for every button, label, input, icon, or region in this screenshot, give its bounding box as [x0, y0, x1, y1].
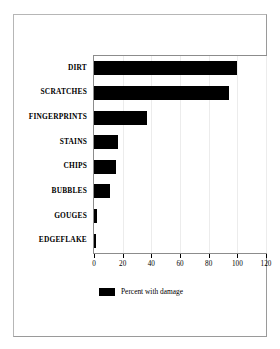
bar-chips[interactable] [94, 160, 116, 174]
bar-row[interactable] [94, 130, 266, 155]
x-tick-mark [94, 254, 95, 258]
plot-area [93, 55, 267, 254]
bar-edgeflake[interactable] [94, 234, 96, 248]
gridline [266, 56, 267, 253]
x-tick-label-100: 100 [232, 260, 243, 268]
category-label-stains: STAINS [60, 129, 87, 154]
category-label-chips: CHIPS [63, 154, 87, 179]
x-tick-mark [209, 254, 210, 258]
bar-stains[interactable] [94, 135, 118, 149]
chart-legend: Percent with damage [14, 287, 268, 296]
x-tick-label-20: 20 [119, 260, 126, 268]
x-tick-mark [180, 254, 181, 258]
category-label-bubbles: BUBBLES [52, 178, 88, 203]
x-axis: 020406080100120 [93, 254, 267, 276]
x-tick-mark [237, 254, 238, 258]
x-tick-label-80: 80 [205, 260, 212, 268]
bar-row[interactable] [94, 56, 266, 81]
bar-row[interactable] [94, 228, 266, 253]
x-tick-label-40: 40 [148, 260, 155, 268]
category-label-edgeflake: EDGEFLAKE [39, 227, 87, 252]
x-tick-label-0: 0 [92, 260, 96, 268]
legend-swatch-percent-with-damage [99, 288, 115, 296]
bar-dirt[interactable] [94, 61, 237, 75]
category-axis-labels: DIRTSCRATCHESFINGERPRINTSSTAINSCHIPSBUBB… [14, 55, 90, 254]
category-label-fingerprints: FINGERPRINTS [29, 104, 87, 129]
legend-label-percent-with-damage: Percent with damage [121, 287, 183, 296]
bar-row[interactable] [94, 155, 266, 180]
category-label-gouges: GOUGES [54, 203, 87, 228]
x-tick-label-120: 120 [261, 260, 272, 268]
bar-gouges[interactable] [94, 209, 97, 223]
category-label-scratches: SCRATCHES [41, 80, 87, 105]
bar-fingerprints[interactable] [94, 111, 147, 125]
bar-bubbles[interactable] [94, 184, 110, 198]
bar-row[interactable] [94, 81, 266, 106]
x-tick-mark [266, 254, 267, 258]
x-tick-mark [123, 254, 124, 258]
bar-row[interactable] [94, 204, 266, 229]
x-tick-mark [151, 254, 152, 258]
figure-frame: DIRTSCRATCHESFINGERPRINTSSTAINSCHIPSBUBB… [13, 14, 267, 337]
category-label-dirt: DIRT [68, 55, 87, 80]
x-tick-label-60: 60 [176, 260, 183, 268]
bar-row[interactable] [94, 105, 266, 130]
bar-scratches[interactable] [94, 86, 229, 100]
bar-chart: DIRTSCRATCHESFINGERPRINTSSTAINSCHIPSBUBB… [14, 15, 268, 338]
bars-layer [94, 56, 266, 253]
bar-row[interactable] [94, 179, 266, 204]
